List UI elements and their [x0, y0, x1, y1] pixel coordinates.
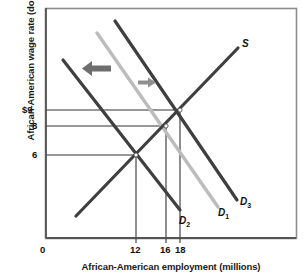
- y-tick-label-6: 6: [32, 149, 37, 160]
- plot-frame: [46, 9, 297, 239]
- curve-label-d2-sub: 2: [186, 221, 190, 228]
- supply-curve-s: [76, 48, 238, 216]
- leftward-shift-arrow: [82, 61, 111, 76]
- curve-label-d1: D1: [218, 207, 229, 220]
- curve-label-s-text: S: [242, 38, 249, 49]
- x-tick-label-16: 16: [160, 244, 171, 255]
- curve-label-s: S: [242, 38, 249, 49]
- curve-label-d2: D2: [179, 215, 190, 228]
- curve-label-d1-sub: 1: [225, 213, 229, 220]
- equilibrium-point-9-18: [178, 108, 182, 112]
- curve-label-d3: D3: [240, 196, 251, 209]
- origin-label: 0: [40, 244, 45, 255]
- supply-demand-chart: African-American wage rate (dollars) Afr…: [0, 0, 308, 279]
- y-tick-label-8: 8: [32, 120, 37, 131]
- curve-label-d3-sub: 3: [247, 202, 251, 209]
- chart-canvas: [0, 0, 308, 279]
- y-tick-label-9: $9: [22, 104, 33, 115]
- equilibrium-point-6-12: [134, 153, 138, 157]
- equilibrium-point-8-16: [164, 124, 168, 128]
- x-axis-label: African-American employment (millions): [45, 261, 297, 272]
- x-tick-label-12: 12: [130, 244, 141, 255]
- demand-curve-d2: [63, 60, 180, 210]
- x-tick-label-18: 18: [175, 244, 186, 255]
